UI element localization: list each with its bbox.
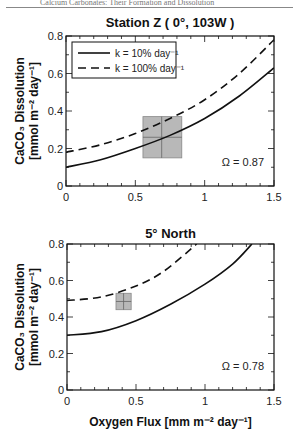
y-tick-label: 0.6 — [48, 68, 63, 80]
x-tick-label: 0 — [63, 191, 69, 203]
legend-label: k = 10% day⁻¹ — [115, 48, 179, 59]
y-axis-title: CaCO₃ Dissolution — [13, 263, 27, 371]
omega-annotation: Ω = 0.78 — [222, 360, 264, 372]
y-tick-label: 0.2 — [48, 143, 63, 155]
series-line-k10 — [67, 244, 252, 335]
y-axis-units: [mmol m⁻² day⁻¹] — [27, 268, 41, 366]
chart-panel-1: Station Z ( 0°, 103W )00.511.500.20.40.6… — [13, 15, 282, 203]
y-axis-units: [mmol m⁻² day⁻¹] — [27, 62, 41, 160]
y-tick-label: 0.8 — [49, 238, 64, 250]
y-tick-label: 0 — [57, 180, 63, 192]
series-line-k100 — [67, 244, 197, 301]
legend-label: k = 100% day⁻¹ — [115, 63, 185, 74]
y-axis-title: CaCO₃ Dissolution — [13, 57, 27, 165]
y-tick-label: 0 — [58, 384, 64, 396]
y-tick-label: 0.4 — [49, 311, 64, 323]
x-tick-label: 1.5 — [266, 395, 281, 407]
x-axis-title: Oxygen Flux [mm m⁻² day⁻¹] — [89, 415, 252, 429]
omega-annotation: Ω = 0.87 — [222, 156, 264, 168]
chart-panel-2: 5° North00.511.500.20.40.60.8CaCO₃ Disso… — [13, 226, 282, 429]
x-tick-label: 1 — [202, 395, 208, 407]
figure: Station Z ( 0°, 103W )00.511.500.20.40.6… — [0, 0, 293, 437]
chart-title: Station Z ( 0°, 103W ) — [106, 15, 235, 30]
x-tick-label: 0 — [64, 395, 70, 407]
y-tick-label: 0.8 — [48, 30, 63, 42]
y-tick-label: 0.4 — [48, 105, 63, 117]
x-tick-label: 0.5 — [128, 395, 143, 407]
chart-title: 5° North — [145, 226, 196, 241]
x-tick-label: 0.5 — [128, 191, 143, 203]
x-tick-label: 1 — [202, 191, 208, 203]
legend: k = 10% day⁻¹k = 100% day⁻¹ — [72, 42, 185, 78]
y-tick-label: 0.6 — [49, 275, 64, 287]
y-tick-label: 0.2 — [49, 348, 64, 360]
x-tick-label: 1.5 — [266, 191, 281, 203]
